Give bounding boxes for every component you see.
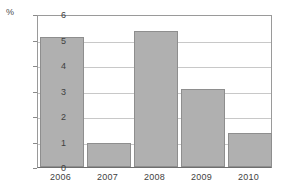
- y-axis-unit-label: %: [6, 8, 14, 17]
- y-axis-tick-label: 1: [44, 139, 66, 148]
- x-axis-tick-label: 2007: [84, 173, 131, 182]
- y-axis-tick-mark: [33, 92, 37, 93]
- bar: [134, 31, 178, 167]
- bar: [181, 89, 225, 167]
- y-axis-tick-mark: [33, 41, 37, 42]
- x-axis-tick-label: 2009: [178, 173, 225, 182]
- y-axis-tick-mark: [33, 143, 37, 144]
- x-axis-tick-label: 2006: [37, 173, 84, 182]
- y-axis-tick-mark: [33, 15, 37, 16]
- y-axis-tick-label: 5: [44, 37, 66, 46]
- x-axis-tick-label: 2008: [131, 173, 178, 182]
- y-axis-tick-label: 4: [44, 62, 66, 71]
- bar: [87, 143, 131, 167]
- bar-chart: % 0123456 20062007200820092010: [0, 0, 297, 192]
- x-axis-tick-label: 2010: [225, 173, 272, 182]
- y-axis-tick-mark: [33, 66, 37, 67]
- bar: [228, 133, 272, 167]
- y-axis-tick-label: 2: [44, 113, 66, 122]
- y-axis-tick-label: 3: [44, 88, 66, 97]
- y-axis-tick-mark: [33, 117, 37, 118]
- y-axis-tick-label: 6: [44, 11, 66, 20]
- plot-area: [37, 15, 272, 168]
- y-axis-tick-mark: [33, 168, 37, 169]
